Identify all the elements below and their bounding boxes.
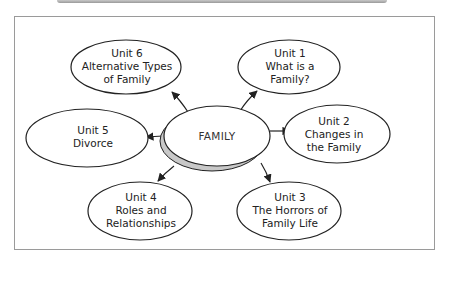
node-unit3-title: Unit 3 [274, 191, 305, 203]
arrow-to-unit6 [172, 92, 188, 112]
node-unit1-title: Unit 1 [274, 47, 305, 59]
node-unit4-title: Unit 4 [125, 191, 157, 203]
arrow-to-unit3 [261, 163, 270, 182]
node-unit2: Unit 2 Changes in the Family [284, 105, 390, 163]
mind-map: FAMILY Unit 6 Alternative Types of Famil… [0, 0, 454, 282]
node-unit2-line2: the Family [307, 141, 361, 153]
node-unit5-title: Unit 5 [77, 124, 108, 136]
node-unit6-title: Unit 6 [111, 47, 143, 59]
center-node: FAMILY [160, 106, 270, 171]
arrow-to-unit1 [240, 91, 257, 111]
node-unit4-line1: Roles and [115, 204, 166, 216]
node-unit1-line2: Family? [270, 73, 309, 85]
node-unit5-line1: Divorce [73, 137, 113, 149]
center-node-label: FAMILY [198, 130, 235, 142]
node-unit1: Unit 1 What is a Family? [238, 40, 340, 94]
node-unit6-line2: of Family [103, 73, 150, 85]
node-unit2-title: Unit 2 [318, 115, 349, 127]
node-unit6-line1: Alternative Types [82, 60, 173, 72]
node-unit3-line2: Family Life [262, 217, 318, 229]
node-unit4: Unit 4 Roles and Relationships [88, 182, 192, 240]
node-unit3-line1: The Horrors of [251, 204, 327, 216]
arrow-to-unit4 [158, 166, 174, 181]
node-unit1-line1: What is a [265, 60, 314, 72]
node-unit2-line1: Changes in [305, 128, 364, 140]
node-unit4-line2: Relationships [106, 217, 176, 229]
node-unit5: Unit 5 Divorce [26, 109, 148, 167]
node-unit6: Unit 6 Alternative Types of Family [71, 40, 181, 94]
node-unit3: Unit 3 The Horrors of Family Life [237, 182, 341, 240]
